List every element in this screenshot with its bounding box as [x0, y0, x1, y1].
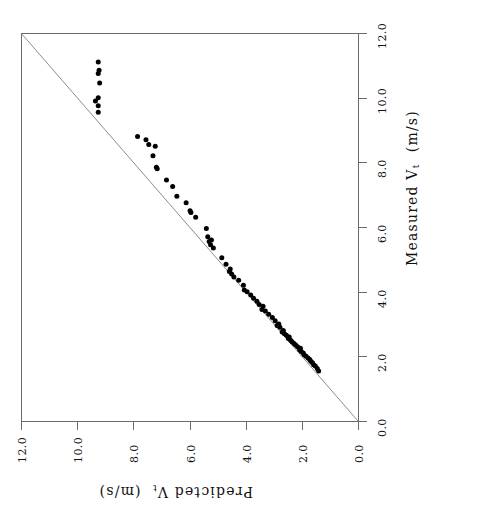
data-point: [241, 283, 246, 288]
data-point: [205, 234, 210, 239]
data-point: [236, 278, 241, 283]
predicted-tick-mark: [190, 422, 191, 430]
predicted-tick-mark: [358, 422, 359, 430]
data-point: [150, 153, 155, 158]
data-point: [228, 267, 233, 272]
predicted-axis-title: Predicted Vt (m/s): [98, 483, 253, 500]
predicted-tick-label: 0.0: [353, 444, 366, 463]
measured-axis-title: Measured Vt (m/s): [404, 110, 421, 266]
measured-tick-mark: [359, 356, 367, 357]
data-point: [143, 137, 148, 142]
predicted-tick-mark: [133, 422, 134, 430]
measured-tick-mark: [359, 227, 367, 228]
predicted-tick-mark: [246, 422, 247, 430]
measured-tick-mark: [359, 33, 367, 34]
figure-canvas: 0.02.04.06.08.010.012.0 12.010.08.06.04.…: [0, 0, 479, 523]
measured-tick-label: 12.0: [376, 23, 389, 49]
measured-tick-mark: [359, 421, 367, 422]
predicted-tick-mark: [21, 422, 22, 430]
data-point: [135, 134, 140, 139]
measured-tick-label: 10.0: [376, 88, 389, 114]
data-point: [174, 194, 179, 199]
predicted-tick-label: 4.0: [241, 444, 254, 463]
data-point: [170, 184, 175, 189]
predicted-tick-label: 2.0: [297, 444, 310, 463]
predicted-tick-label: 12.0: [16, 437, 29, 463]
data-point: [224, 262, 229, 267]
measured-tick-mark: [359, 98, 367, 99]
measured-tick-mark: [359, 162, 367, 163]
data-point: [96, 103, 101, 108]
data-point: [96, 110, 101, 115]
data-point: [153, 144, 158, 149]
predicted-axis-title-main: Predicted V: [157, 484, 253, 500]
data-point: [188, 208, 193, 213]
data-point: [164, 178, 169, 183]
measured-tick-label: 6.0: [376, 224, 389, 243]
predicted-tick-mark: [302, 422, 303, 430]
predicted-tick-mark: [77, 422, 78, 430]
data-point-group: [93, 60, 321, 374]
data-point: [193, 215, 198, 220]
measured-tick-mark: [359, 292, 367, 293]
predicted-axis-title-subscript: t: [152, 483, 157, 493]
predicted-tick-label: 10.0: [72, 437, 85, 463]
data-point: [219, 255, 224, 260]
measured-axis-title-subscript: t: [411, 164, 421, 169]
measured-tick-label: 8.0: [376, 159, 389, 178]
data-point: [184, 200, 189, 205]
data-point: [96, 95, 101, 100]
data-point: [96, 60, 101, 65]
measured-axis-title-main: Measured V: [404, 168, 420, 266]
data-point: [146, 142, 151, 147]
data-point: [204, 226, 209, 231]
measured-tick-label: 4.0: [376, 289, 389, 308]
measured-axis-title-units: (m/s): [404, 110, 420, 152]
predicted-tick-label: 8.0: [128, 444, 141, 463]
data-point: [154, 165, 159, 170]
one-to-one-reference-line: [21, 33, 358, 421]
measured-tick-label: 2.0: [376, 353, 389, 372]
predicted-axis-title-units: (m/s): [98, 484, 140, 500]
data-point: [242, 288, 247, 293]
measured-tick-label: 0.0: [376, 418, 389, 437]
predicted-tick-label: 6.0: [185, 444, 198, 463]
data-point: [97, 81, 102, 86]
data-point: [97, 68, 102, 73]
